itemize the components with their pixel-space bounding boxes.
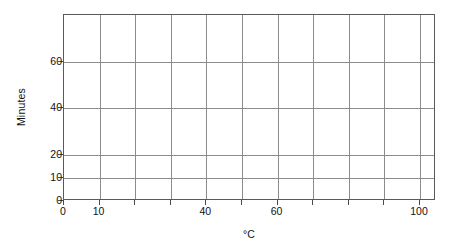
gridline-vertical bbox=[135, 15, 136, 199]
gridline-vertical bbox=[384, 15, 385, 199]
x-axis-tick-label: 100 bbox=[399, 205, 439, 217]
x-axis-tick bbox=[348, 200, 349, 205]
y-axis-tick-label: 40 bbox=[22, 101, 62, 113]
gridline-vertical bbox=[420, 15, 421, 199]
x-axis-title: °C bbox=[63, 228, 435, 240]
gridline-vertical bbox=[349, 15, 350, 199]
gridline-horizontal bbox=[64, 155, 434, 156]
x-axis-tick bbox=[383, 200, 384, 205]
gridline-vertical bbox=[313, 15, 314, 199]
chart-container: 0104060100010204060 Minutes °C bbox=[0, 0, 458, 248]
x-axis-tick bbox=[170, 200, 171, 205]
y-axis-title: Minutes bbox=[14, 14, 28, 200]
x-axis-tick bbox=[312, 200, 313, 205]
x-axis-tick bbox=[241, 200, 242, 205]
x-axis-tick bbox=[134, 200, 135, 205]
x-axis-tick-label: 10 bbox=[79, 205, 119, 217]
x-axis-tick-label: 40 bbox=[185, 205, 225, 217]
x-axis-tick-label: 0 bbox=[43, 205, 83, 217]
gridline-vertical bbox=[100, 15, 101, 199]
y-axis-tick-label: 10 bbox=[22, 171, 62, 183]
gridline-horizontal bbox=[64, 62, 434, 63]
y-axis-tick-label: 60 bbox=[22, 55, 62, 67]
gridline-vertical bbox=[206, 15, 207, 199]
plot-area bbox=[63, 14, 435, 200]
gridline-vertical bbox=[171, 15, 172, 199]
gridline-vertical bbox=[278, 15, 279, 199]
y-axis-tick-label: 20 bbox=[22, 148, 62, 160]
y-axis-tick-label: 0 bbox=[22, 194, 62, 206]
gridline-horizontal bbox=[64, 178, 434, 179]
gridline-horizontal bbox=[64, 108, 434, 109]
gridline-vertical bbox=[242, 15, 243, 199]
x-axis-tick-label: 60 bbox=[257, 205, 297, 217]
